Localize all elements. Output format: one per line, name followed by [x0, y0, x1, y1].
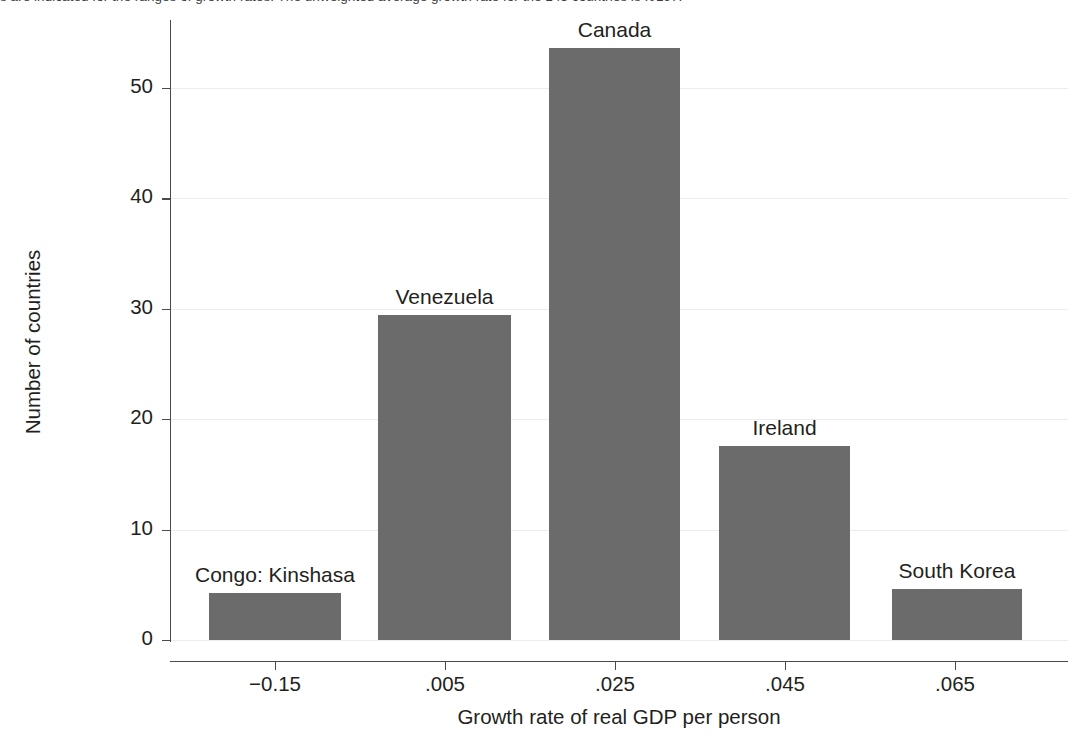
x-axis-tick-label: .025: [595, 672, 635, 696]
bar-annotation-label: Canada: [578, 18, 652, 42]
bar-annotation-label: Ireland: [752, 416, 816, 440]
histogram-figure: 01020304050 −0.15.005.025.045.065 Congo:…: [0, 0, 1081, 753]
histogram-bar: [378, 315, 511, 640]
y-axis-tick-label: 30: [95, 295, 153, 319]
y-axis-tick-label: 50: [95, 74, 153, 98]
x-axis-line: [170, 661, 1068, 662]
bar-annotation-label: Congo: Kinshasa: [195, 563, 355, 587]
bar-annotation-label: Venezuela: [395, 285, 493, 309]
y-axis-line: [170, 20, 171, 642]
histogram-bar: [719, 446, 850, 640]
histogram-bar: [209, 593, 341, 640]
y-axis-tick-label: 0: [95, 626, 153, 650]
histogram-bar: [892, 589, 1022, 640]
y-axis-tick-label: 40: [95, 184, 153, 208]
gridline: [171, 640, 1068, 641]
y-axis-title: Number of countries: [21, 172, 45, 512]
y-axis-tick-label: 20: [95, 405, 153, 429]
y-axis-tick-label: 10: [95, 516, 153, 540]
x-axis-tick-label: .065: [935, 672, 975, 696]
x-axis-tick-label: .005: [425, 672, 465, 696]
histogram-bar: [549, 48, 680, 640]
x-axis-tick-label: .045: [765, 672, 805, 696]
x-axis-title: Growth rate of real GDP per person: [170, 705, 1068, 729]
x-axis-tick-label: −0.15: [249, 672, 301, 696]
bar-annotation-label: South Korea: [899, 559, 1016, 583]
